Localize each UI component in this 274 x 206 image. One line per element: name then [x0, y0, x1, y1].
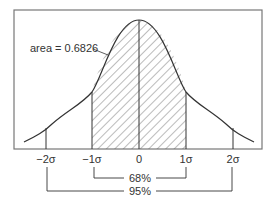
normal-distribution-diagram: area = 0.6826 −2σ −1σ 0 1σ 2σ 68% 95%: [0, 0, 274, 206]
tick-plus-1-sigma: 1σ: [180, 153, 193, 165]
tick-zero: 0: [136, 153, 142, 165]
bracket-68-label: 68%: [129, 172, 151, 184]
tick-plus-2-sigma: 2σ: [227, 153, 240, 165]
bracket-95-label: 95%: [129, 185, 151, 197]
area-label: area = 0.6826: [30, 42, 98, 54]
tick-minus-1-sigma: −1σ: [82, 153, 102, 165]
tick-minus-2-sigma: −2σ: [36, 153, 56, 165]
